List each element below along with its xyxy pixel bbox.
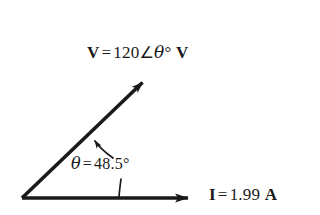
current-equals-sign: = (216, 185, 230, 204)
voltage-magnitude: 120 (113, 43, 139, 62)
angle-operator-icon: ∠ (139, 43, 154, 62)
voltage-unit: V (176, 43, 188, 62)
voltage-degree-symbol: ° (165, 43, 172, 62)
voltage-equals-sign: = (99, 43, 113, 62)
voltage-phasor-label: V=120∠θ° V (87, 44, 188, 61)
theta-equals-sign: = (81, 155, 94, 172)
current-value: 1.99 (230, 185, 261, 204)
phasor-vector-graphic (0, 0, 320, 215)
theta-symbol: θ (71, 154, 81, 173)
voltage-phasor-arrow (22, 83, 143, 199)
current-symbol: I (209, 185, 216, 204)
theta-degree-symbol: ° (123, 155, 130, 172)
theta-value: 48.5 (94, 155, 123, 172)
voltage-symbol: V (87, 43, 99, 62)
angle-value-label: θ=48.5° (71, 156, 130, 172)
voltage-angle-variable: θ (154, 42, 164, 62)
current-unit: A (265, 185, 277, 204)
angle-leader-tick (119, 179, 121, 197)
phasor-diagram-figure: V=120∠θ° V θ=48.5° I=1.99 A (0, 0, 320, 215)
current-phasor-label: I=1.99 A (209, 186, 277, 203)
